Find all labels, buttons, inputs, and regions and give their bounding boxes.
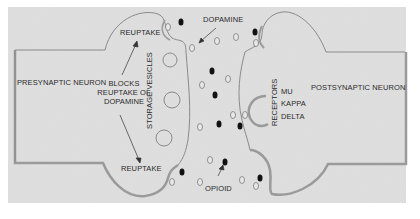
- reuptake-top-label: REUPTAKE: [120, 28, 161, 37]
- receptor-kappa-label: KAPPA: [281, 99, 306, 108]
- opioid-label: OPIOID: [205, 184, 232, 193]
- dopamine-label: DOPAMINE: [203, 15, 243, 24]
- reuptake-bottom-label: REUPTAKE: [121, 164, 162, 173]
- receptors-label: RECEPTORS: [270, 79, 279, 126]
- presynaptic-neuron-label: PRESYNAPTIC NEURON: [17, 78, 106, 87]
- receptor-mu-label: MU: [281, 87, 293, 96]
- receptor-delta-label: DELTA: [281, 112, 305, 121]
- storage-vesicles-label: STORAGE VESICLES: [145, 52, 154, 129]
- postsynaptic-neuron-label: POSTSYNAPTIC NEURON: [311, 83, 405, 92]
